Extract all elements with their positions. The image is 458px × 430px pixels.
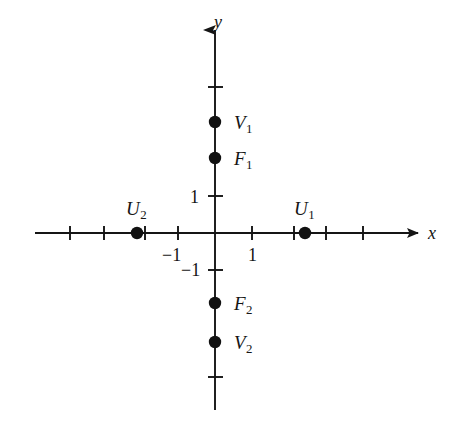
point-label-U1-subscript: 1 [308,207,314,222]
point-label-F1: F1 [234,149,253,172]
x-axis-label-text: x [428,223,436,243]
y-axis-label-text: y [214,12,222,32]
point-label-F2: F2 [234,294,253,317]
y-tick-label-neg-1-text: −1 [181,260,200,280]
point-label-V1-subscript: 1 [246,121,252,136]
point-label-U2-subscript: 2 [140,207,146,222]
point-label-V1-letter: V [234,112,246,133]
y-tick-label-neg-1: −1 [181,261,200,279]
y-tick-label-1-text: 1 [190,187,199,207]
x-tick-label-1: 1 [248,246,257,264]
axes-and-points-graphic [0,0,458,430]
point-F2 [209,297,221,309]
x-axis-label: x [428,224,436,242]
point-label-F2-letter: F [234,293,246,314]
point-V1 [209,116,221,128]
point-label-V2: V2 [234,333,253,356]
x-tick-label-neg-1-text: −1 [162,245,181,265]
point-label-U1: U1 [294,199,315,222]
point-U1 [299,227,311,239]
point-label-F1-letter: F [234,148,246,169]
point-label-V2-letter: V [234,332,246,353]
y-axis-label: y [214,13,222,31]
y-tick-label-1: 1 [190,188,199,206]
data-points [131,116,311,348]
x-tick-label-1-text: 1 [248,245,257,265]
point-label-U2: U2 [126,199,147,222]
point-label-V2-subscript: 2 [246,341,252,356]
point-label-U2-letter: U [126,198,140,219]
point-label-V1: V1 [234,113,253,136]
point-V2 [209,336,221,348]
point-U2 [131,227,143,239]
point-label-F1-subscript: 1 [246,157,252,172]
point-label-F2-subscript: 2 [246,302,252,317]
point-F1 [209,152,221,164]
coordinate-plane-figure: y x 1 −1 −1 1 V1 F1 U2 U1 F2 V2 [0,0,458,430]
x-tick-label-neg-1: −1 [162,246,181,264]
point-label-U1-letter: U [294,198,308,219]
